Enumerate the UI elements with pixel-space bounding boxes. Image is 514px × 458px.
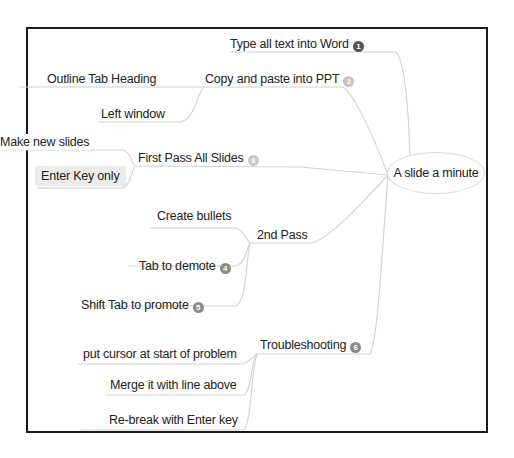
priority-4-badge-icon: 4 bbox=[220, 263, 231, 274]
node-label: Enter Key only bbox=[41, 168, 120, 184]
child-node-create-bullets[interactable]: Create bullets bbox=[157, 208, 231, 224]
node-label: Type all text into Word bbox=[230, 36, 349, 52]
child-node-outline-tab-heading[interactable]: Outline Tab Heading bbox=[47, 71, 156, 87]
priority-2-badge-icon: 2 bbox=[343, 76, 354, 87]
node-label: Left window bbox=[101, 106, 165, 122]
child-node-put-cursor[interactable]: put cursor at start of problem bbox=[83, 346, 237, 362]
root-node[interactable]: A slide a minute bbox=[387, 152, 485, 194]
node-label: Merge it with line above bbox=[110, 377, 237, 393]
priority-6-badge-icon: 6 bbox=[350, 342, 361, 353]
branch-node-2nd-pass[interactable]: 2nd Pass bbox=[257, 227, 308, 243]
priority-1-badge-icon: 1 bbox=[353, 41, 364, 52]
child-node-enter-key-only-selected[interactable]: Enter Key only bbox=[35, 166, 126, 186]
node-label: First Pass All Slides bbox=[138, 150, 244, 166]
branch-node-type-all-text[interactable]: Type all text into Word1 bbox=[230, 36, 364, 52]
priority-3-badge-icon: 3 bbox=[248, 155, 259, 166]
child-node-tab-to-demote[interactable]: Tab to demote4 bbox=[139, 258, 231, 274]
branch-node-first-pass[interactable]: First Pass All Slides3 bbox=[138, 150, 259, 166]
node-label: Copy and paste into PPT bbox=[205, 71, 339, 87]
node-label: Troubleshooting bbox=[260, 337, 346, 353]
branch-node-troubleshooting[interactable]: Troubleshooting6 bbox=[260, 337, 361, 353]
priority-5-badge-icon: 5 bbox=[193, 302, 204, 313]
node-label: Re-break with Enter key bbox=[109, 412, 238, 428]
node-label: Make new slides bbox=[0, 134, 89, 150]
child-node-make-new-slides[interactable]: Make new slides bbox=[0, 134, 91, 150]
root-label: A slide a minute bbox=[393, 166, 478, 180]
child-node-merge-line-above[interactable]: Merge it with line above bbox=[110, 377, 237, 393]
node-label: Shift Tab to promote bbox=[81, 297, 189, 313]
child-node-re-break-enter-key[interactable]: Re-break with Enter key bbox=[109, 412, 238, 428]
node-label: put cursor at start of problem bbox=[83, 346, 237, 362]
branch-node-copy-paste[interactable]: Copy and paste into PPT2 bbox=[205, 71, 354, 87]
node-label: Tab to demote bbox=[139, 258, 216, 274]
child-node-shift-tab-to-promote[interactable]: Shift Tab to promote5 bbox=[81, 297, 204, 313]
node-label: Create bullets bbox=[157, 208, 231, 224]
child-node-left-window[interactable]: Left window bbox=[101, 106, 165, 122]
node-label: Outline Tab Heading bbox=[47, 71, 156, 87]
node-label: 2nd Pass bbox=[257, 227, 308, 243]
